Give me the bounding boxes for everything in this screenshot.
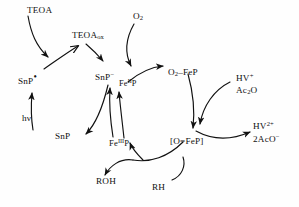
arc-left-cycle: [40, 62, 47, 95]
label-oxo-fep: [O=FeP]: [170, 137, 204, 146]
label-hv-2plus-aco: HV2+ 2AcO−: [253, 120, 279, 145]
label-teoa: TEOA: [27, 6, 52, 15]
arrow-snp-anion-vertical: [110, 88, 113, 137]
label-fe2-porphyrin: FeIIP: [119, 78, 137, 88]
arrow-oxofep-to-hv2plus: [196, 131, 250, 138]
label-o2-fep-adduct: O2–FeP: [168, 68, 198, 78]
label-rh: RH: [152, 183, 165, 192]
arrow-snp-anion-to-snp: [86, 85, 108, 134]
arrow-o2-in: [127, 24, 134, 66]
arrow-loop-to-roh: [105, 160, 133, 175]
arrow-to-fe3p: [130, 143, 143, 160]
label-dioxygen: O2: [133, 12, 143, 22]
arrow-hv-ac2o-in: [200, 82, 230, 124]
label-ac2o: Ac2O: [236, 85, 257, 97]
arrow-rh-in: [172, 157, 184, 180]
arrow-fe3p-to-fe2p: [119, 92, 124, 138]
arrow-o2fep-to-oxofep: [188, 74, 194, 128]
label-teoa-ox: TEOAox: [72, 31, 104, 41]
label-snp-anion: SnP−: [95, 72, 114, 82]
label-hv-2plus: HV2+: [253, 120, 279, 133]
label-photon: hν: [22, 114, 31, 123]
label-roh: ROH: [96, 177, 116, 186]
reaction-scheme-figure: TEOA TEOAox O2 SnP• SnP− FeIIP O2–FeP HV…: [0, 0, 299, 207]
label-snp-ground: SnP: [55, 132, 70, 141]
label-fe3-porphyrin: FeIIIP: [109, 138, 129, 147]
label-snp-excited: SnP•: [18, 72, 37, 86]
label-2aco-minus: 2AcO−: [253, 133, 279, 146]
label-hv-plus: HV+: [236, 72, 257, 85]
arrow-teoa-in: [28, 16, 48, 57]
arrow-teoaox-to-snp-anion: [86, 44, 103, 61]
arrow-snp-radical-to-teoaox: [44, 46, 78, 69]
scheme-arrows-layer: [0, 0, 299, 207]
label-hv-plus-ac2o: HV+ Ac2O: [236, 72, 257, 96]
